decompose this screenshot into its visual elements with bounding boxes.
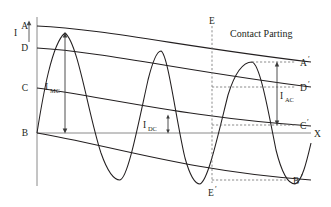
label-A-prime: A (300, 58, 307, 68)
label-iac-group: I AC (280, 91, 294, 103)
label-C-prime-group: C ′ (300, 118, 309, 131)
short-circuit-current-diagram: I X A D C B A ′ D ′ C ′ B ′ E E ′ Contac… (0, 0, 331, 207)
prime-mark-C: ′ (307, 118, 309, 127)
label-B-prime-group: B ′ (293, 173, 303, 186)
label-iac-symbol: I (280, 91, 283, 101)
idc-arrow-head-top (166, 115, 170, 119)
label-B-prime: B (293, 176, 299, 186)
prime-mark-B: ′ (301, 173, 303, 182)
iac-arrow-head-top (275, 62, 279, 67)
label-C-prime: C (300, 121, 306, 131)
label-C: C (22, 83, 28, 93)
label-idc-symbol: I (143, 120, 146, 130)
label-B: B (22, 128, 28, 138)
label-D-prime: D (300, 83, 307, 93)
prime-mark-D: ′ (308, 80, 310, 89)
label-A: A (21, 21, 28, 31)
label-D-prime-group: D ′ (300, 80, 310, 93)
envelope-lower-B-Bprime (37, 133, 311, 180)
label-imc-symbol: I (45, 82, 48, 92)
label-D: D (21, 43, 28, 53)
x-axis-label: X (314, 129, 321, 139)
label-iac-subscript: AC (285, 96, 294, 103)
label-E-top: E (209, 16, 215, 26)
measurement-dc-component (166, 115, 170, 134)
label-imc-subscript: MC (50, 87, 60, 94)
label-idc-subscript: DC (148, 125, 157, 132)
measurement-momentary-current (63, 33, 68, 134)
label-E-bottom: E (208, 188, 214, 198)
label-E-prime-group: E ′ (208, 185, 217, 198)
label-imc-group: I MC (45, 82, 60, 94)
contact-parting-label: Contact Parting (230, 28, 293, 39)
measurement-ac-component (275, 62, 279, 126)
y-axis-label: I (14, 28, 17, 38)
prime-mark-A: ′ (308, 55, 310, 64)
label-idc-group: I DC (143, 120, 157, 132)
prime-mark-E: ′ (215, 185, 217, 194)
label-A-prime-group: A ′ (300, 55, 310, 68)
envelope-mid-D-Dprime (37, 48, 311, 87)
diagram-canvas: I X A D C B A ′ D ′ C ′ B ′ E E ′ Contac… (0, 0, 331, 207)
